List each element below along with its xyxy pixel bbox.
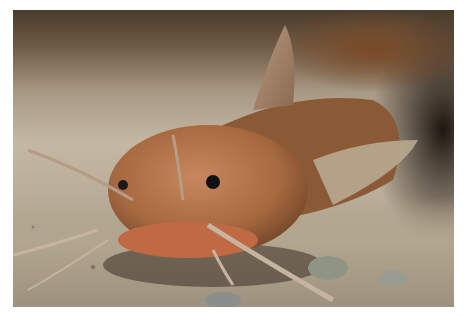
catfish-photo	[13, 10, 454, 307]
catfish-illustration	[13, 10, 454, 307]
